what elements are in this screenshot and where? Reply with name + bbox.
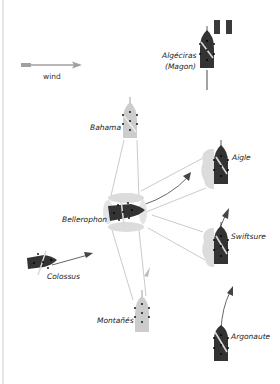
ship-label-magon: (Magon)	[162, 63, 196, 71]
smoke-swiftsure-icon	[202, 228, 214, 267]
battle-diagram: wind Algéciras (Magon) Bahama Aigle Bell…	[0, 0, 280, 384]
ship-bellerophon-icon	[108, 200, 145, 225]
ship-label-algeciras: Algéciras	[162, 52, 196, 60]
ship-label-bahama: Bahama	[90, 124, 121, 132]
ship-bahama-icon	[122, 97, 138, 138]
ship-argonaute-icon	[213, 325, 229, 361]
ship-swiftsure-icon	[213, 222, 229, 264]
ship-label-swiftsure: Swiftsure	[231, 233, 266, 241]
ship-label-colossus: Colossus	[47, 273, 80, 281]
ship-label-montanes: Montañés	[97, 317, 134, 325]
diagram-canvas	[0, 0, 280, 384]
french-flag-icon	[214, 20, 232, 34]
smoke-aigle-icon	[201, 149, 214, 189]
ship-algeciras-icon	[199, 26, 215, 68]
fire-lines	[110, 140, 206, 300]
wind-label: wind	[43, 73, 61, 81]
wind-arrow-icon	[21, 62, 82, 69]
ship-aigle-icon	[213, 140, 229, 184]
ship-label-bellerophon: Bellerophon	[62, 216, 107, 224]
ship-label-argonaute: Argonaute	[231, 333, 270, 341]
ship-montanes-icon	[134, 290, 150, 332]
ship-label-aigle: Aigle	[232, 154, 251, 162]
